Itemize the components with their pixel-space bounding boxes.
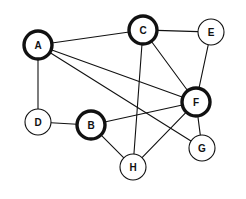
graph-edge-a-c <box>52 32 129 43</box>
graph-edge-b-h <box>101 135 124 158</box>
graph-node-c[interactable]: C <box>129 16 157 44</box>
graph-edge-f-g <box>198 116 201 135</box>
graph-node-label-c: C <box>139 25 146 36</box>
graph-node-g[interactable]: G <box>189 135 215 161</box>
graph-svg: ABCDEFGH <box>0 0 246 199</box>
graph-edge-b-d <box>51 123 77 124</box>
graph-edge-e-f <box>199 45 208 89</box>
graph-node-label-a: A <box>34 40 41 51</box>
graph-node-h[interactable]: H <box>120 154 146 180</box>
graph-diagram-canvas: ABCDEFGH <box>0 0 246 199</box>
graph-edge-f-h <box>142 112 186 158</box>
graph-node-e[interactable]: E <box>198 19 224 45</box>
graph-edge-b-f <box>105 105 183 122</box>
graph-edge-c-f <box>151 41 187 90</box>
graph-nodes-layer: ABCDEFGH <box>24 16 224 180</box>
graph-edge-c-h <box>134 44 142 154</box>
graph-node-label-f: F <box>193 97 199 108</box>
graph-node-a[interactable]: A <box>24 31 52 59</box>
graph-node-f[interactable]: F <box>182 88 210 116</box>
graph-node-label-b: B <box>87 120 94 131</box>
graph-node-label-h: H <box>129 162 136 173</box>
graph-node-d[interactable]: D <box>25 109 51 135</box>
graph-node-label-e: E <box>208 27 215 38</box>
graph-node-label-g: G <box>198 143 206 154</box>
graph-node-label-d: D <box>34 117 41 128</box>
graph-edge-c-e <box>157 30 198 31</box>
graph-node-b[interactable]: B <box>77 111 105 139</box>
